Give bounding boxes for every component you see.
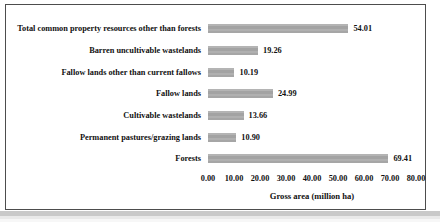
bar-row: Fallow lands other than current fallows1…: [6, 61, 425, 83]
bar-row: Total common property resources other th…: [6, 18, 425, 40]
value-label: 13.66: [249, 111, 268, 120]
category-label: Permanent pastures/grazing lands: [6, 133, 208, 142]
bar: [208, 68, 234, 77]
scanned-chart-page: Total common property resources other th…: [0, 0, 440, 222]
bar-track: 69.41: [208, 154, 416, 163]
x-tick-label: 40.00: [303, 174, 322, 183]
bar: [208, 89, 273, 98]
bar-track: 54.01: [208, 24, 416, 33]
value-label: 69.41: [393, 154, 412, 163]
category-label: Total common property resources other th…: [6, 24, 208, 33]
bar-track: 10.90: [208, 133, 416, 142]
bar: [208, 24, 348, 33]
category-label: Barren uncultivable wastelands: [6, 46, 208, 55]
bar: [208, 111, 244, 120]
bar-row: Forests69.41: [6, 148, 425, 170]
x-axis-title: Gross area (million ha): [208, 191, 416, 201]
bar-track: 13.66: [208, 111, 416, 120]
x-tick-label: 60.00: [355, 174, 374, 183]
x-tick-label: 50.00: [329, 174, 348, 183]
x-tick-label: 0.00: [201, 174, 216, 183]
x-tick-label: 80.00: [407, 174, 426, 183]
x-tick-label: 30.00: [277, 174, 296, 183]
bar: [208, 133, 236, 142]
x-tick-label: 20.00: [251, 174, 270, 183]
bar-track: 19.26: [208, 46, 416, 55]
chart-frame: Total common property resources other th…: [5, 4, 426, 210]
bar: [208, 154, 388, 163]
scan-paper-strip: [0, 211, 440, 222]
value-label: 10.90: [241, 133, 260, 142]
bar-track: 10.19: [208, 68, 416, 77]
bar-rows: Total common property resources other th…: [6, 18, 425, 170]
x-axis-ticks: 0.0010.0020.0030.0040.0050.0060.0070.008…: [208, 174, 416, 186]
x-tick-label: 70.00: [381, 174, 400, 183]
bar-track: 24.99: [208, 89, 416, 98]
value-label: 24.99: [278, 89, 297, 98]
bar-row: Barren uncultivable wastelands19.26: [6, 40, 425, 62]
category-label: Fallow lands other than current fallows: [6, 68, 208, 77]
category-label: Fallow lands: [6, 89, 208, 98]
category-label: Forests: [6, 154, 208, 163]
value-label: 10.19: [239, 68, 258, 77]
category-label: Cultivable wastelands: [6, 111, 208, 120]
value-label: 54.01: [353, 24, 372, 33]
x-tick-label: 10.00: [225, 174, 244, 183]
value-label: 19.26: [263, 46, 282, 55]
bar-row: Permanent pastures/grazing lands10.90: [6, 126, 425, 148]
bar-row: Cultivable wastelands13.66: [6, 105, 425, 127]
bar: [208, 46, 258, 55]
bar-row: Fallow lands24.99: [6, 83, 425, 105]
